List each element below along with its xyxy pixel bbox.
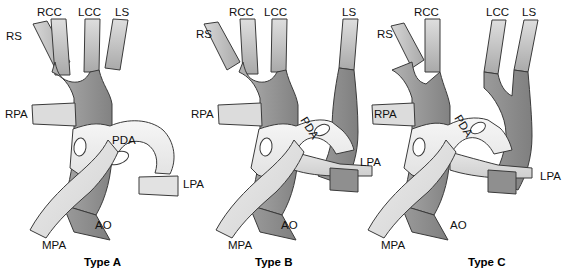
figure-canvas: RS RCC LCC LS RPA PDA LPA AO MPA Type A (0, 0, 572, 273)
label-rpa-b: RPA (191, 108, 214, 120)
label-rpa-c: RPA (374, 108, 397, 120)
label-lcc-b: LCC (264, 6, 287, 18)
label-lcc-c: LCC (486, 6, 509, 18)
label-lpa-c: LPA (540, 170, 561, 182)
vessel-lcc-a (84, 19, 100, 72)
vessel-rcc-c (425, 19, 440, 72)
vessel-lpa-stub-b (330, 168, 358, 192)
label-rpa-a: RPA (5, 108, 28, 120)
caption-type-b: Type B (255, 256, 293, 268)
label-lpa-b: LPA (360, 156, 381, 168)
label-ao-a: AO (95, 219, 112, 231)
vessel-lcc-b (271, 19, 287, 72)
label-mpa-c: MPA (381, 239, 405, 251)
caption-type-c: Type C (468, 256, 506, 268)
label-mpa-b: MPA (228, 239, 252, 251)
label-mpa-a: MPA (42, 239, 66, 251)
label-lpa-a: LPA (183, 178, 204, 190)
vessel-rpa-b (218, 103, 262, 126)
label-rcc-c: RCC (414, 6, 439, 18)
vascular-anatomy-figure: RS RCC LCC LS RPA PDA LPA AO MPA Type A (0, 0, 572, 273)
vessel-lpa-a (139, 176, 178, 196)
label-rs-a: RS (6, 30, 22, 42)
label-rcc-b: RCC (229, 6, 254, 18)
label-ao-b: AO (281, 219, 298, 231)
label-ls-c: LS (522, 6, 536, 18)
label-rs-c: RS (377, 28, 393, 40)
label-lcc-a: LCC (78, 6, 101, 18)
label-rs-b: RS (196, 28, 212, 40)
vessel-lpa-stub-c (488, 170, 516, 194)
label-rcc-a: RCC (37, 6, 62, 18)
label-ls-b: LS (342, 6, 356, 18)
vessel-rpa-a (32, 103, 76, 126)
label-pda-a: PDA (112, 134, 136, 146)
caption-type-a: Type A (84, 256, 121, 268)
label-ao-c: AO (450, 219, 467, 231)
label-ls-a: LS (115, 6, 129, 18)
